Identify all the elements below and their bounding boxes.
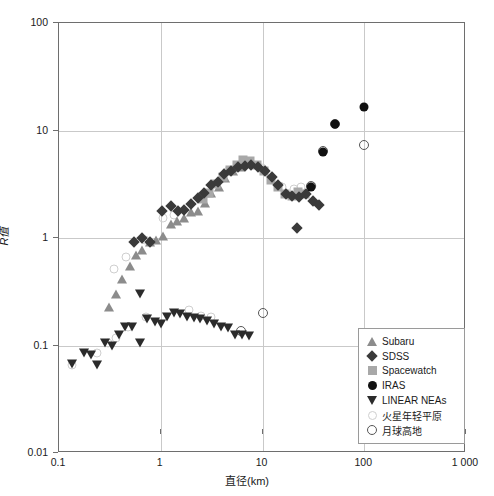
data-point <box>209 319 219 328</box>
data-point <box>135 290 145 299</box>
data-point <box>259 165 270 176</box>
data-point <box>239 156 248 165</box>
x-tick <box>58 429 59 434</box>
circle-icon <box>364 381 380 390</box>
y-tick-label: 0.1 <box>0 339 48 351</box>
data-point <box>267 175 276 184</box>
legend-item: Spacewatch <box>364 364 460 379</box>
data-point <box>216 322 226 331</box>
legend-item-label: Spacewatch <box>382 365 436 376</box>
data-point <box>172 205 183 216</box>
data-point <box>131 250 141 259</box>
x-tick <box>262 429 263 434</box>
data-point <box>223 324 233 333</box>
data-point <box>300 190 309 199</box>
data-point <box>239 160 250 171</box>
data-point <box>294 187 303 196</box>
x-gridline <box>161 23 162 451</box>
data-point <box>142 315 152 324</box>
legend-glyph-shape <box>367 337 377 346</box>
legend-item: 火星年轻平原 <box>364 408 460 423</box>
data-point <box>200 199 210 208</box>
data-point <box>235 162 245 171</box>
scatter-plot-figure: 0.11101001 000 0.010.1110100 直径(km) R值 S… <box>0 0 494 496</box>
data-point <box>157 205 168 216</box>
legend-item: Subaru <box>364 334 460 349</box>
data-point <box>245 159 254 168</box>
data-point <box>170 210 179 219</box>
data-point <box>236 326 246 336</box>
data-point <box>124 322 133 331</box>
y-tick <box>53 237 58 238</box>
open-circle-light-icon <box>364 411 380 420</box>
legend-item: LINEAR NEAs <box>364 393 460 408</box>
data-point <box>206 189 216 198</box>
triangle-down-icon <box>364 396 380 405</box>
data-point <box>226 165 235 174</box>
data-point <box>214 182 224 191</box>
data-point <box>246 157 255 166</box>
data-point <box>212 179 221 188</box>
data-point <box>228 167 238 176</box>
x-tick-label: 100 <box>354 456 372 468</box>
data-point <box>68 360 77 369</box>
data-point <box>186 207 196 216</box>
data-point <box>185 305 194 314</box>
data-point <box>287 190 298 201</box>
legend-item-label: Subaru <box>382 336 414 347</box>
data-point <box>202 316 212 325</box>
data-point <box>272 179 283 190</box>
square-icon <box>364 366 380 375</box>
data-point <box>86 350 96 359</box>
data-point <box>246 159 257 170</box>
data-point <box>189 314 199 323</box>
data-point <box>277 182 286 191</box>
data-point <box>280 188 291 199</box>
data-point <box>253 160 262 169</box>
data-point <box>205 189 214 198</box>
data-point <box>219 168 230 179</box>
data-point <box>79 349 89 358</box>
data-point <box>266 172 277 183</box>
x-tick-label: 10 <box>256 456 268 468</box>
y-tick <box>53 452 58 453</box>
data-point <box>226 165 237 176</box>
y-tick <box>53 22 58 23</box>
data-point <box>198 195 207 204</box>
data-point <box>290 185 299 194</box>
legend-glyph-shape <box>366 351 377 362</box>
triangle-up-icon <box>364 337 380 346</box>
data-point <box>330 119 340 129</box>
data-point <box>331 119 340 128</box>
data-point <box>307 182 316 191</box>
data-point <box>197 311 206 320</box>
data-point <box>232 161 243 172</box>
data-point <box>172 216 182 225</box>
data-point <box>111 290 121 299</box>
data-point <box>127 322 137 331</box>
data-point <box>291 222 302 233</box>
data-point <box>300 188 311 199</box>
data-point <box>104 302 114 311</box>
x-gridline <box>263 23 264 451</box>
y-tick-label: 0.01 <box>0 446 48 458</box>
data-point <box>111 333 120 342</box>
data-point <box>260 167 269 176</box>
data-point <box>273 182 282 191</box>
x-axis-title: 直径(km) <box>0 472 494 488</box>
data-point <box>314 200 325 211</box>
data-point <box>244 332 254 341</box>
data-point <box>237 331 247 340</box>
data-point <box>232 160 241 169</box>
data-point <box>297 183 306 192</box>
data-point <box>206 312 215 321</box>
y-axis-title: R值 <box>0 227 11 246</box>
data-point <box>166 219 176 228</box>
data-point <box>205 179 216 190</box>
data-point <box>117 274 127 283</box>
data-point <box>175 310 185 319</box>
data-point <box>185 198 196 209</box>
data-point <box>193 206 203 215</box>
y-tick-label: 100 <box>0 16 48 28</box>
legend-item-label: 火星年轻平原 <box>382 408 442 423</box>
